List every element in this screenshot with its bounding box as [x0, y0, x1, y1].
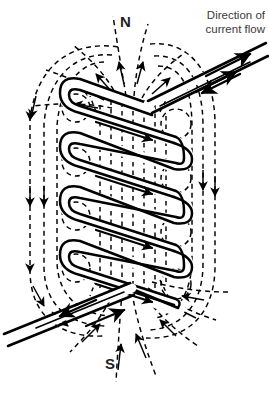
diagram-canvas: [0, 0, 269, 395]
north-pole-label: N: [120, 13, 131, 30]
south-pole-label: S: [105, 355, 116, 372]
solenoid-coil: [60, 78, 192, 312]
current-direction-caption: Direction of current flow: [169, 8, 265, 36]
current-caption-line-2: current flow: [169, 22, 265, 36]
current-caption-line-1: Direction of: [169, 8, 265, 22]
solenoid-field-diagram: N S Direction of current flow: [0, 0, 269, 395]
